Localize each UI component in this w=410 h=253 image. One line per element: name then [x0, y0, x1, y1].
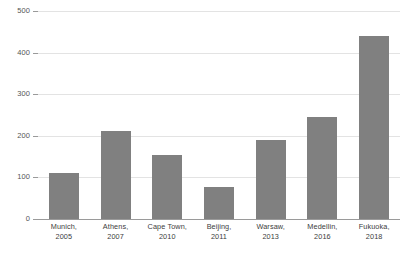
- y-tick-label-100: 100: [0, 173, 30, 181]
- bar: [152, 155, 182, 219]
- bar-chart: 0100200300400500 Munich,2005Athens,2007C…: [0, 0, 410, 253]
- bars-layer: [38, 11, 400, 219]
- x-axis-label-year: 2018: [341, 232, 407, 242]
- y-tick-label-0: 0: [0, 215, 30, 223]
- plot-area: [38, 11, 400, 219]
- gridline-0: [38, 219, 400, 220]
- bar: [101, 131, 131, 219]
- x-axis-labels: Munich,2005Athens,2007Cape Town,2010Beij…: [38, 222, 400, 252]
- y-tick-label-300: 300: [0, 90, 30, 98]
- bar: [359, 36, 389, 219]
- x-axis-label-city: Fukuoka,: [341, 222, 407, 232]
- y-tick-label-500: 500: [0, 7, 30, 15]
- bar: [49, 173, 79, 219]
- bar: [307, 117, 337, 219]
- bar: [204, 187, 234, 219]
- x-axis-label: Fukuoka,2018: [341, 222, 407, 241]
- y-axis: 0100200300400500: [0, 0, 38, 253]
- y-tick-label-200: 200: [0, 132, 30, 140]
- bar: [256, 140, 286, 219]
- y-tick-label-400: 400: [0, 49, 30, 57]
